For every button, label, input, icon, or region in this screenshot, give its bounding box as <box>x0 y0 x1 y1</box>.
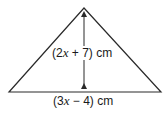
base-label-open: (3 <box>53 94 64 108</box>
height-label-open: (2 <box>52 46 63 60</box>
base-label-rest: − 4) cm <box>69 94 113 108</box>
base-label: (3x − 4) cm <box>52 94 114 108</box>
height-label: (2x + 7) cm <box>51 46 113 60</box>
height-label-rest: + 7) cm <box>68 46 112 60</box>
triangle-diagram: (2x + 7) cm (3x − 4) cm <box>0 0 163 115</box>
